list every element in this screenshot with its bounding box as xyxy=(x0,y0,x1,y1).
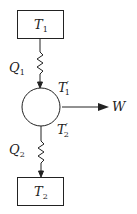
heat-engine-diagram: T1 Q1 T′1 W T′2 Q2 T2 xyxy=(0,0,137,214)
heat-in-label: Q1 xyxy=(9,61,25,77)
heat-out-spring xyxy=(38,126,44,177)
engine-hot-temp-label: T′1 xyxy=(58,81,70,97)
hot-reservoir-label: T1 xyxy=(34,18,48,34)
heat-out-label: Q2 xyxy=(9,143,25,159)
cold-reservoir-label: T2 xyxy=(34,185,48,201)
engine-circle xyxy=(22,88,60,126)
work-arrow xyxy=(62,103,109,111)
engine-cold-temp-label: T′2 xyxy=(57,123,69,139)
work-label: W xyxy=(112,100,125,113)
heat-in-spring xyxy=(37,39,43,89)
